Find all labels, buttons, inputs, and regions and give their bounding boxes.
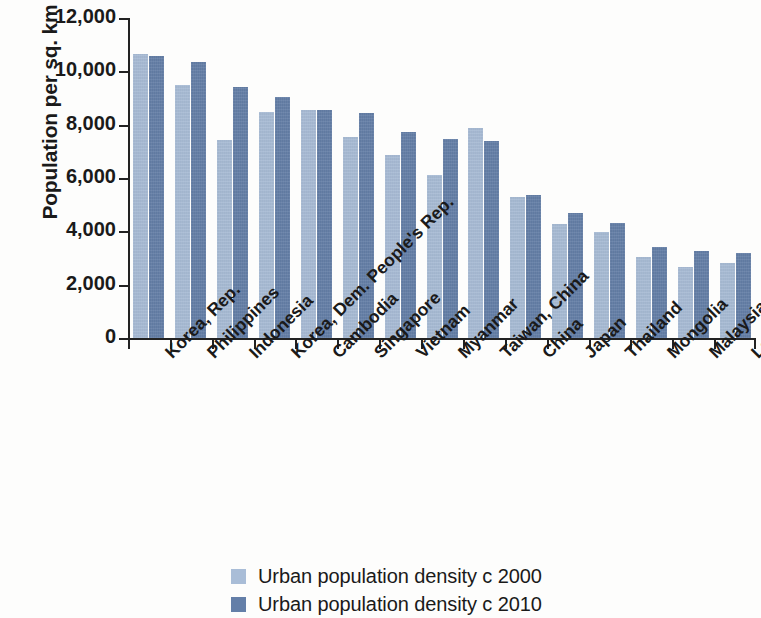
bar (175, 85, 190, 338)
bar-group (678, 18, 709, 338)
x-tick-label: Taiwan, China (496, 348, 511, 363)
bar-group (636, 18, 667, 338)
bar-group (594, 18, 625, 338)
chart-figure: Population per sq. km 02,0004,0006,0008,… (0, 0, 761, 618)
y-tick-mark (119, 18, 128, 20)
x-tick-label: Cambodia (328, 348, 343, 363)
legend-item-2010: Urban population density c 2010 (231, 590, 542, 618)
x-tick-label: Philippines (203, 348, 218, 363)
y-tick-label: 10,000 (0, 58, 116, 81)
bar (149, 56, 164, 338)
x-tick-label: Mongolia (663, 348, 678, 363)
bar-group (175, 18, 206, 338)
y-tick-label: 8,000 (0, 112, 116, 135)
y-tick-mark (119, 71, 128, 73)
x-axis-labels: Korea, Rep.PhilippinesIndonesiaKorea, De… (128, 348, 756, 478)
bar (468, 128, 483, 338)
x-tick-label: China (538, 348, 553, 363)
legend-swatch-2000-icon (231, 569, 246, 584)
bar-group (133, 18, 164, 338)
legend-label-2000: Urban population density c 2000 (258, 565, 542, 588)
legend-item-2000: Urban population density c 2000 (231, 562, 542, 590)
y-tick-mark (119, 125, 128, 127)
bar (191, 62, 206, 338)
y-tick-mark (119, 285, 128, 287)
x-tick-label: Myanmar (454, 348, 469, 363)
legend-swatch-2010-icon (231, 597, 246, 612)
bar-group (301, 18, 332, 338)
x-tick-label: Thailand (621, 348, 636, 363)
y-tick-label: 0 (0, 325, 116, 348)
x-tick-label: Singapore (370, 348, 385, 363)
y-tick-label: 12,000 (0, 5, 116, 28)
bar-group (510, 18, 541, 338)
x-tick-label: Vietnam (412, 348, 427, 363)
bar-group (468, 18, 499, 338)
x-tick-label: Lao PDR (747, 348, 761, 363)
bar-group (720, 18, 751, 338)
legend-label-2010: Urban population density c 2010 (258, 593, 542, 616)
x-tick-label: Indonesia (245, 348, 260, 363)
x-tick-label: Korea, Dem. People's Rep. (287, 348, 302, 363)
y-axis-line (128, 18, 130, 338)
y-tick-label: 4,000 (0, 218, 116, 241)
y-tick-label: 6,000 (0, 165, 116, 188)
y-tick-mark (119, 178, 128, 180)
chart-legend: Urban population density c 2000 Urban po… (231, 562, 542, 618)
x-tick-label: Japan (580, 348, 595, 363)
y-tick-mark (119, 231, 128, 233)
x-tick-label: Korea, Rep. (161, 348, 176, 363)
bar (133, 54, 148, 338)
y-tick-mark (119, 338, 128, 340)
x-tick-label: Malaysia (705, 348, 720, 363)
y-tick-label: 2,000 (0, 272, 116, 295)
